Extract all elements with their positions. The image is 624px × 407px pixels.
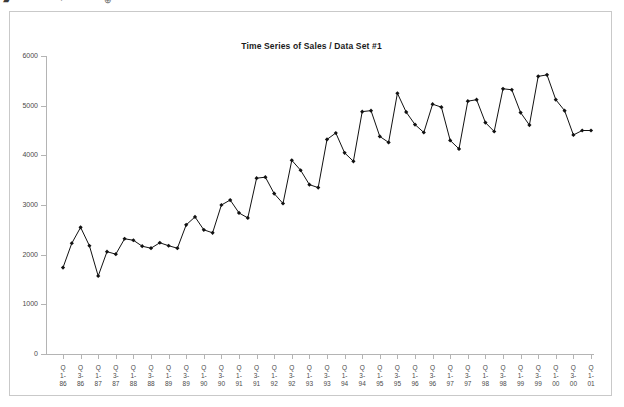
series-data-point xyxy=(61,265,65,269)
series-data-point xyxy=(316,186,320,190)
series-data-point xyxy=(79,225,83,229)
series-data-point xyxy=(246,216,250,220)
series-data-point xyxy=(96,274,100,278)
series-data-point xyxy=(70,241,74,245)
series-data-point xyxy=(175,246,179,250)
series-data-point xyxy=(255,176,259,180)
series-data-point xyxy=(167,244,171,248)
chart-figure-frame: Time Series of Sales / Data Set #1 01000… xyxy=(9,11,612,396)
series-plot xyxy=(10,12,613,397)
series-data-point xyxy=(211,231,215,235)
series-data-point xyxy=(123,237,127,241)
series-data-point xyxy=(475,98,479,102)
series-data-point xyxy=(114,252,118,256)
top-strip-mid-glyph: · xyxy=(60,0,63,5)
series-data-point xyxy=(219,203,223,207)
series-data-point xyxy=(105,250,109,254)
series-data-point xyxy=(589,128,593,132)
series-data-point xyxy=(87,244,91,248)
top-strip-right-glyph: ⊕ xyxy=(104,0,112,5)
series-data-point xyxy=(369,109,373,113)
plot-area: 0100020003000400050006000 Q1-86Q3-86Q1-8… xyxy=(10,12,613,397)
top-strip-left-glyph: ▰ xyxy=(3,0,10,5)
series-data-point xyxy=(571,133,575,137)
series-markers xyxy=(61,73,593,278)
series-data-point xyxy=(360,110,364,114)
series-data-point xyxy=(580,128,584,132)
window-top-strip: ▰ · ⊕ xyxy=(0,0,624,9)
series-data-point xyxy=(466,99,470,103)
series-data-point xyxy=(439,105,443,109)
series-data-point xyxy=(510,88,514,92)
series-data-point xyxy=(431,102,435,106)
series-data-point xyxy=(536,74,540,78)
series-data-point xyxy=(263,175,267,179)
series-data-point xyxy=(545,73,549,77)
series-data-point xyxy=(501,87,505,91)
series-data-point xyxy=(395,91,399,95)
